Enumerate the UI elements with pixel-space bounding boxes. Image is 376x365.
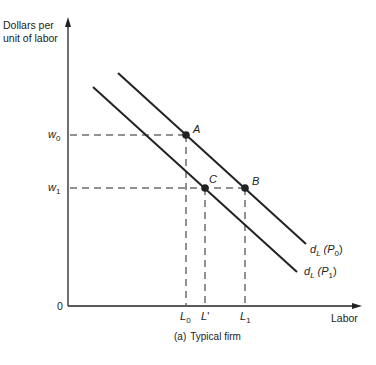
y-axis-title-line2: unit of labor <box>3 32 58 44</box>
curve-label-p1: dL(P1) <box>304 265 337 280</box>
point-B-label: B <box>252 175 259 187</box>
demand-curve-p1 <box>93 87 297 272</box>
y-axis-title-line1: Dollars per <box>3 19 54 31</box>
y-tick-w0: w0 <box>48 128 61 143</box>
x-axis-arrow-icon <box>352 303 362 309</box>
x-axis-title: Labor <box>331 312 358 324</box>
point-A <box>182 131 190 139</box>
figure-caption: (a)Typical firm <box>174 331 241 342</box>
dashed-guides <box>70 135 245 305</box>
origin-label: 0 <box>57 300 63 312</box>
point-B <box>241 184 249 192</box>
point-C-label: C <box>209 173 217 185</box>
labor-demand-diagram: A C B Dollars per unit of labor w0 w1 0 … <box>0 0 376 365</box>
x-tick-L1: L1 <box>240 310 251 325</box>
x-tick-Lprime: L' <box>201 310 209 322</box>
axes <box>68 24 355 306</box>
point-A-label: A <box>192 123 200 135</box>
y-tick-w1: w1 <box>48 181 61 196</box>
x-tick-L0: L0 <box>180 310 191 325</box>
y-axis-arrow-icon <box>65 17 71 27</box>
demand-curve-p0 <box>118 73 306 244</box>
curve-label-p0: dL(P0) <box>310 243 343 258</box>
point-C <box>201 184 209 192</box>
